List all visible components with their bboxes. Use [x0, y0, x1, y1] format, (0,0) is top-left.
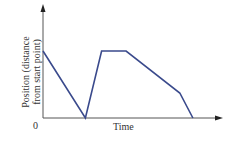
y-axis-label-line1: Position (distance	[20, 32, 31, 112]
x-axis-label: Time	[113, 121, 134, 132]
origin-label: 0	[33, 120, 38, 131]
position-time-chart: Position (distance from start point) Tim…	[0, 0, 234, 144]
y-axis-arrow-icon	[41, 4, 46, 12]
position-line	[43, 51, 193, 118]
x-axis-arrow-icon	[215, 116, 223, 121]
y-axis-label-line2: from start point)	[31, 32, 42, 112]
y-axis-label: Position (distance from start point)	[20, 32, 42, 112]
